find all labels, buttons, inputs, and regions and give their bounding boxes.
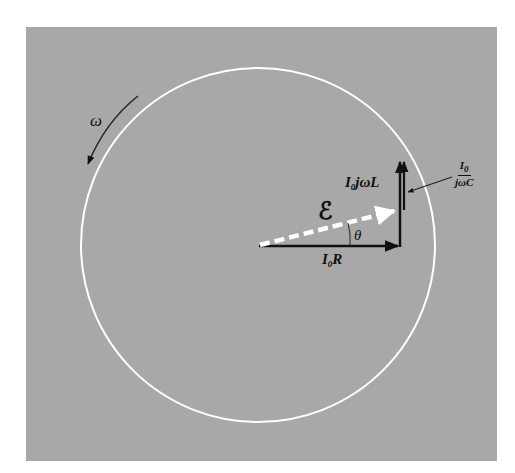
phasor-diagram <box>0 0 515 473</box>
capacitor-phasor-label: I0 jωC <box>455 160 473 188</box>
omega-label: ω <box>90 112 102 129</box>
capacitor-label-denominator: jωC <box>455 176 473 188</box>
inductor-phasor-label: I0jωL <box>345 175 380 192</box>
omega-rotation-arrow <box>88 96 138 164</box>
emf-label: ℰ <box>318 199 333 223</box>
capacitor-num-sub: 0 <box>464 164 469 174</box>
theta-label: θ <box>354 228 361 243</box>
capacitor-leader-line <box>408 177 452 192</box>
resistor-phasor-label: I0R <box>322 252 342 269</box>
inductor-label-rest: jωL <box>355 174 379 190</box>
theta-angle-arc <box>348 223 350 246</box>
resistor-label-rest: R <box>332 251 342 267</box>
capacitor-label-numerator: I0 <box>458 160 471 176</box>
